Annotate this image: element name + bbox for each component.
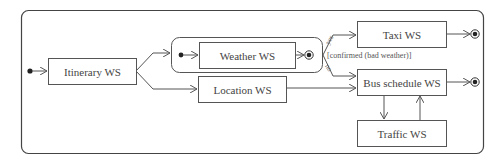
weather-final-node-icon (307, 53, 312, 58)
weather-ws-state: Weather WS (199, 42, 296, 69)
traffic-ws-state: Traffic WS (357, 120, 447, 147)
initial-node-icon (27, 68, 32, 73)
location-ws-state: Location WS (198, 76, 287, 103)
bus-schedule-ws-state: Bus schedule WS (357, 69, 447, 96)
weather-initial-node-icon (179, 53, 184, 58)
itinerary-ws-state: Itinerary WS (48, 58, 137, 85)
taxi-final-node-icon (473, 32, 478, 37)
guard-condition-label: [confirmed (bad weather)] (327, 51, 411, 60)
taxi-ws-state: Taxi WS (357, 21, 447, 48)
bus-final-node-icon (473, 80, 478, 85)
